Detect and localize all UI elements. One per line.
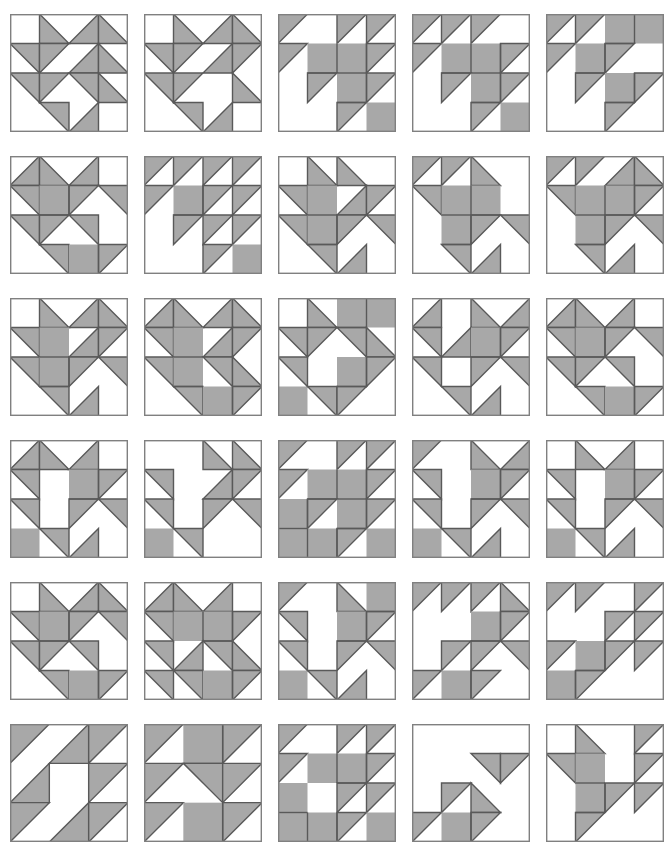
quilt-cell-solid <box>337 357 367 387</box>
quilt-cell-solid <box>308 813 338 843</box>
quilt-cell-solid <box>576 215 606 245</box>
quilt-cell-solid <box>605 14 635 44</box>
quilt-cell-solid <box>40 328 70 358</box>
quilt-block <box>546 156 664 274</box>
quilt-cell-solid <box>442 671 472 701</box>
quilt-cell-solid <box>278 529 308 559</box>
quilt-block <box>144 156 262 274</box>
quilt-cell-solid <box>605 186 635 216</box>
quilt-cell-solid <box>471 612 501 642</box>
quilt-cell-solid <box>10 529 40 559</box>
quilt-cell-solid <box>605 387 635 417</box>
quilt-cell-solid <box>471 73 501 103</box>
quilt-block <box>412 440 530 558</box>
quilt-block <box>144 298 262 416</box>
quilt-block <box>144 724 262 842</box>
quilt-cell-solid <box>337 612 367 642</box>
quilt-block <box>10 724 128 842</box>
quilt-cell-solid <box>442 813 472 843</box>
quilt-cell-solid <box>40 612 70 642</box>
quilt-block <box>10 14 128 132</box>
quilt-cell-solid <box>546 671 576 701</box>
quilt-block <box>278 582 396 700</box>
quilt-block <box>546 724 664 842</box>
quilt-cell-solid <box>183 803 222 842</box>
quilt-cell-solid <box>308 529 338 559</box>
quilt-block <box>10 440 128 558</box>
quilt-block <box>10 298 128 416</box>
quilt-cell-solid <box>40 186 70 216</box>
quilt-cell-solid <box>40 357 70 387</box>
quilt-cell-solid <box>635 14 664 44</box>
quilt-cell-solid <box>69 671 99 701</box>
quilt-cell-solid <box>174 328 204 358</box>
quilt-cell-solid <box>337 754 367 784</box>
quilt-cell-solid <box>367 298 397 328</box>
quilt-cell-solid <box>69 245 99 275</box>
quilt-cell-solid <box>576 754 606 784</box>
quilt-cell-solid <box>337 470 367 500</box>
quilt-cell-solid <box>576 783 606 813</box>
quilt-cell-solid <box>367 103 397 133</box>
quilt-cell-solid <box>576 44 606 74</box>
quilt-block <box>546 298 664 416</box>
quilt-cell-solid <box>412 529 442 559</box>
quilt-block <box>278 156 396 274</box>
quilt-block <box>278 440 396 558</box>
quilt-block <box>412 724 530 842</box>
quilt-cell-solid <box>308 215 338 245</box>
quilt-block <box>546 440 664 558</box>
quilt-cell-solid <box>69 470 99 500</box>
quilt-block-sheet <box>0 0 664 862</box>
quilt-block <box>10 582 128 700</box>
quilt-block <box>546 14 664 132</box>
quilt-cell-solid <box>471 44 501 74</box>
quilt-cell-solid <box>278 671 308 701</box>
quilt-block <box>278 14 396 132</box>
quilt-cell-solid <box>367 813 397 843</box>
quilt-block <box>144 582 262 700</box>
quilt-cell-solid <box>501 103 531 133</box>
quilt-cell-solid <box>308 754 338 784</box>
quilt-block <box>278 724 396 842</box>
quilt-block <box>412 298 530 416</box>
quilt-block <box>412 14 530 132</box>
quilt-cell-solid <box>278 387 308 417</box>
quilt-cell-solid <box>546 529 576 559</box>
quilt-cell-solid <box>278 499 308 529</box>
quilt-cell-solid <box>144 529 174 559</box>
quilt-cell-solid <box>442 215 472 245</box>
quilt-cell-solid <box>337 499 367 529</box>
quilt-cell-solid <box>576 186 606 216</box>
quilt-block <box>144 14 262 132</box>
quilt-cell-solid <box>203 612 233 642</box>
quilt-cell-solid <box>278 783 308 813</box>
quilt-cell-solid <box>174 357 204 387</box>
quilt-cell-solid <box>367 529 397 559</box>
quilt-cell-solid <box>203 387 233 417</box>
quilt-cell-solid <box>278 813 308 843</box>
quilt-cell-solid <box>337 44 367 74</box>
quilt-cell-solid <box>442 44 472 74</box>
quilt-cell-solid <box>308 186 338 216</box>
quilt-cell-solid <box>174 612 204 642</box>
quilt-cell-solid <box>367 582 397 612</box>
quilt-cell-solid <box>576 641 606 671</box>
quilt-cell-solid <box>308 44 338 74</box>
quilt-cell-solid <box>576 328 606 358</box>
quilt-cell-solid <box>471 328 501 358</box>
quilt-cell-solid <box>337 298 367 328</box>
quilt-block <box>10 156 128 274</box>
quilt-cell-solid <box>183 724 222 763</box>
quilt-cell-solid <box>337 73 367 103</box>
quilt-cell-solid <box>308 470 338 500</box>
quilt-block <box>546 582 664 700</box>
quilt-cell-solid <box>233 245 263 275</box>
quilt-block <box>412 156 530 274</box>
quilt-cell-solid <box>471 470 501 500</box>
quilt-cell-solid <box>174 186 204 216</box>
quilt-cell-solid <box>203 671 233 701</box>
quilt-block <box>412 582 530 700</box>
quilt-block <box>278 298 396 416</box>
quilt-cell-solid <box>442 186 472 216</box>
